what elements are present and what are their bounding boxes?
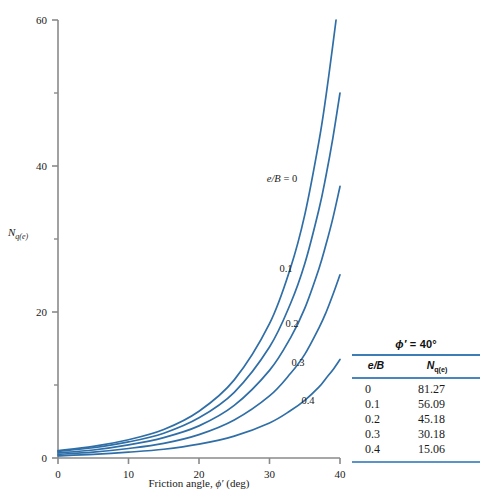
y-axis-ticks: [52, 20, 58, 458]
curve-e-b-0.1: [58, 93, 340, 451]
table-cell-nq: 45.18: [400, 412, 474, 427]
table-cell-eb: 0.3: [352, 427, 400, 442]
table-title-rest: = 40°: [407, 338, 437, 350]
table-cell-eb: 0: [352, 382, 400, 397]
table-row: 0.245.18: [352, 412, 480, 427]
table-header-nq: Nq(e): [400, 359, 474, 374]
chart-curves: [58, 20, 340, 456]
table-cell-eb: 0.2: [352, 412, 400, 427]
table-cell-nq: 81.27: [400, 382, 474, 397]
x-tick-label: 40: [335, 468, 347, 480]
table-row: 081.27: [352, 382, 480, 397]
chart-curve-labels: e/B = 00.10.20.30.4: [267, 173, 316, 406]
table-row: 0.156.09: [352, 397, 480, 412]
table-cell-nq: 15.06: [400, 442, 474, 457]
table-cell-eb: 0.4: [352, 442, 400, 457]
table-body: 081.270.156.090.245.180.330.180.415.06: [352, 379, 480, 459]
x-tick-label: 10: [123, 468, 135, 480]
data-table: ϕ′ = 40° e/B Nq(e) 081.270.156.090.245.1…: [352, 338, 480, 463]
chart-plot-area: 0204060 010203040 e/B = 00.10.20.30.4 Nq…: [0, 0, 360, 502]
curve-label: e/B = 0: [267, 173, 297, 184]
table-title: ϕ′ = 40°: [352, 338, 480, 354]
table-title-symbol: ϕ′: [395, 338, 406, 350]
x-tick-label: 0: [55, 468, 61, 480]
y-tick-label: 0: [42, 452, 48, 464]
table-row: 0.330.18: [352, 427, 480, 442]
table-cell-eb: 0.1: [352, 397, 400, 412]
chart-svg: 0204060 010203040 e/B = 00.10.20.30.4 Nq…: [0, 0, 360, 502]
table-header-eb-text: e/B: [368, 359, 384, 371]
curve-label: 0.2: [285, 318, 298, 329]
table-header-nq-sub: q(e): [434, 366, 447, 374]
table-rule-bottom: [352, 461, 480, 464]
table-row: 0.415.06: [352, 442, 480, 457]
y-tick-label: 60: [36, 14, 48, 26]
y-tick-label: 20: [36, 306, 48, 318]
curve-label: 0.1: [279, 263, 292, 274]
y-tick-label: 40: [36, 160, 48, 172]
x-tick-label: 30: [264, 468, 276, 480]
curve-label: 0.4: [301, 395, 315, 406]
x-axis-title: Friction angle, ϕ′ (deg): [149, 477, 250, 490]
table-cell-nq: 56.09: [400, 397, 474, 412]
table-header-eb: e/B: [352, 359, 400, 374]
x-axis-ticks: [58, 458, 340, 464]
curve-label: 0.3: [291, 357, 304, 368]
y-axis-title: Nq(e): [7, 226, 29, 241]
table-header-row: e/B Nq(e): [352, 356, 480, 377]
figure-root: 0204060 010203040 e/B = 00.10.20.30.4 Nq…: [0, 0, 485, 502]
curve-e-b-0: [58, 20, 336, 451]
y-axis-tick-labels: 0204060: [36, 14, 48, 464]
curve-e-b-0.4: [58, 359, 340, 455]
table-cell-nq: 30.18: [400, 427, 474, 442]
